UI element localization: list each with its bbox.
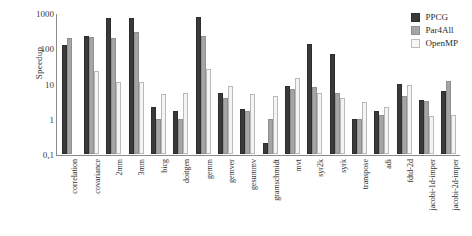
bar-openmp [206,69,211,154]
bar-group [371,14,393,154]
x-label-slot: gemver [214,157,236,235]
plot-area [56,14,460,156]
x-label-slot: jacobi-1d-imper [415,157,437,235]
legend-swatch-par4all [411,26,420,35]
bar-openmp [451,115,456,154]
bar-par4all [67,38,72,154]
x-axis-tick-label: 3mm [138,159,146,175]
x-axis-tick-labels: correlationcovariance2mm3mmbicgdoitgenge… [57,157,460,235]
bars-layer [58,14,460,154]
legend-item-ppcg[interactable]: PPCG [411,12,458,22]
y-axis-tick: 100 [41,45,55,54]
bar-group [147,14,169,154]
bar-group [103,14,125,154]
bar-group [125,14,147,154]
x-axis-tick-label: bicg [161,159,169,173]
x-label-slot: gemm [191,157,213,235]
x-axis-tick-label: adi [385,159,393,169]
bar-openmp [139,82,144,154]
x-axis-tick-label: syr2k [317,159,325,177]
bar-group [192,14,214,154]
x-axis-tick-label: doitgen [183,159,191,183]
x-axis-tick-label: mvt [295,159,303,171]
bar-group [237,14,259,154]
x-label-slot: gesummv [236,157,258,235]
bar-group [326,14,348,154]
x-label-slot: 2mm [102,157,124,235]
speedup-bar-chart: Speedup 10001001010,1 correlationcovaria… [0,0,472,236]
x-label-slot: transpose [348,157,370,235]
x-axis-tick-label: fdtd-2d [407,159,415,183]
bar-openmp [317,93,322,154]
y-axis-tick: 1 [50,115,55,124]
legend-label-par4all: Par4All [425,25,453,35]
bar-openmp [183,93,188,154]
bar-openmp [228,86,233,154]
x-label-slot: jacobi-2d-imper [438,157,460,235]
y-axis-tick-labels: 10001001010,1 [22,14,54,156]
bar-group [348,14,370,154]
x-label-slot: syrk [326,157,348,235]
x-axis-tick-label: gramschmidt [273,159,281,201]
x-label-slot: 3mm [124,157,146,235]
bar-openmp [250,94,255,154]
bar-openmp [116,82,121,154]
legend-item-par4all[interactable]: Par4All [411,25,458,35]
legend-label-openmp: OpenMP [425,38,458,48]
bar-openmp [94,71,99,154]
x-label-slot: fdtd-2d [393,157,415,235]
x-axis-tick-label: jacobi-2d-imper [452,159,460,211]
bar-openmp [429,116,434,154]
legend: PPCG Par4All OpenMP [411,12,458,48]
bar-group [214,14,236,154]
y-axis-tick: 0,1 [43,151,54,160]
x-axis-tick-label: 2mm [116,159,124,175]
x-axis-tick-label: covariance [94,159,102,194]
legend-label-ppcg: PPCG [425,12,448,22]
y-axis-tick: 10 [45,80,54,89]
x-axis-tick-label: gemver [228,159,236,183]
x-axis-tick-label: syrk [340,159,348,173]
legend-item-openmp[interactable]: OpenMP [411,38,458,48]
x-label-slot: covariance [79,157,101,235]
x-label-slot: correlation [57,157,79,235]
x-axis-tick-label: gesummv [250,159,258,190]
bar-openmp [161,94,166,154]
x-axis-tick-label: transpose [362,159,370,189]
x-axis-tick-label: jacobi-1d-imper [429,159,437,211]
legend-swatch-openmp [411,39,420,48]
legend-swatch-ppcg [411,13,420,22]
x-label-slot: bicg [147,157,169,235]
y-axis-tick: 1000 [36,10,54,19]
bar-group [259,14,281,154]
x-axis-tick-label: correlation [71,159,79,194]
bar-openmp [340,98,345,154]
bar-group [281,14,303,154]
bar-openmp [295,78,300,154]
bar-openmp [362,102,367,154]
bar-openmp [273,96,278,154]
x-label-slot: mvt [281,157,303,235]
bar-openmp [384,107,389,154]
x-label-slot: syr2k [303,157,325,235]
x-label-slot: adi [370,157,392,235]
x-label-slot: gramschmidt [259,157,281,235]
bar-group [170,14,192,154]
x-label-slot: doitgen [169,157,191,235]
bar-group [58,14,80,154]
bar-group [304,14,326,154]
x-axis-tick-label: gemm [206,159,214,179]
bar-openmp [407,85,412,154]
bar-group [80,14,102,154]
